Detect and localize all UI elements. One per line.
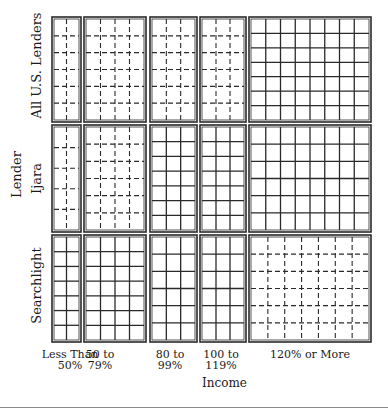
- x-label-120-or-more: 120% or More: [260, 349, 360, 360]
- x-axis-title: Income: [202, 376, 247, 390]
- bottom-divider: [0, 407, 388, 408]
- mosaic-cell-0-4: [249, 17, 371, 122]
- row-label-searchlight: Searchlight: [29, 236, 44, 336]
- mosaic-cell-2-3: [200, 235, 246, 342]
- mosaic-cell-0-3: [200, 17, 246, 122]
- mosaic-cell-2-2: [150, 235, 197, 342]
- x-label-line1: 120% or More: [260, 349, 360, 360]
- row-label-ijara: Ijara: [29, 129, 44, 229]
- mosaic-cell-0-2: [150, 17, 197, 122]
- mosaic-cell-0-1: [84, 17, 146, 122]
- mosaic-cell-2-4: [249, 235, 371, 342]
- x-label-line2: 119%: [191, 360, 251, 371]
- mosaic-cell-1-1: [84, 125, 146, 232]
- mosaic-cell-2-1: [84, 235, 146, 342]
- row-label-all-us-lenders: All U.S. Lenders: [29, 19, 44, 119]
- mosaic-cell-1-0: [52, 125, 81, 232]
- mosaic-cell-1-4: [249, 125, 371, 232]
- x-label-line2: 79%: [70, 360, 130, 371]
- mosaic-cell-1-2: [150, 125, 197, 232]
- mosaic-cell-2-0: [52, 235, 81, 342]
- y-axis-title: Lender: [9, 145, 24, 205]
- mosaic-cell-0-0: [52, 17, 81, 122]
- mosaic-cell-1-3: [200, 125, 246, 232]
- x-label-50-to-79: 50 to 79%: [70, 349, 130, 371]
- x-label-100-to-119: 100 to 119%: [191, 349, 251, 371]
